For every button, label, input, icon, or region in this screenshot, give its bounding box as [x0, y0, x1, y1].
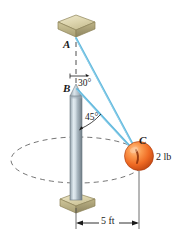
angle-label-45: 45° — [85, 113, 98, 123]
mechanics-figure: A B C 30° 45° 2 lb 5 ft — [0, 0, 184, 242]
cord-AC — [76, 38, 138, 154]
vertical-pole — [70, 84, 82, 200]
cords — [76, 38, 138, 156]
angle-label-30: 30° — [78, 79, 91, 89]
dimension-label-5ft: 5 ft — [101, 216, 115, 226]
point-label-b: B — [63, 83, 70, 94]
point-label-a: A — [63, 39, 70, 50]
point-label-c: C — [139, 135, 146, 146]
top-mount-block — [58, 15, 95, 37]
weight-label: 2 lb — [156, 152, 171, 162]
